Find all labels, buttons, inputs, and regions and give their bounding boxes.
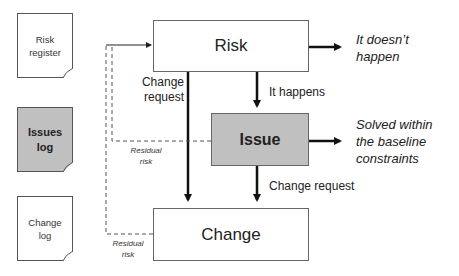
- box-issue: Issue: [211, 113, 309, 166]
- doc-risk-register-line2: register: [29, 46, 61, 59]
- page-fold-icon: [63, 162, 73, 172]
- label-residual-risk-change-line2: risk: [108, 249, 148, 260]
- box-change-label: Change: [201, 225, 261, 245]
- outcome-issue-line3: constraints: [356, 150, 433, 167]
- outcome-risk-line2: happen: [356, 48, 409, 65]
- doc-issues-log: Issues log: [17, 107, 73, 172]
- doc-change-log-line2: log: [28, 229, 61, 242]
- box-change: Change: [153, 208, 309, 261]
- outcome-issue-line1: Solved within: [356, 116, 433, 133]
- label-residual-risk-change-line1: Residual: [108, 238, 148, 249]
- label-change-request-left-line2: request: [132, 90, 184, 105]
- page-fold-icon: [63, 68, 73, 78]
- label-residual-risk-change: Residual risk: [108, 238, 148, 260]
- label-residual-risk-issue: Residual risk: [126, 145, 166, 167]
- box-risk: Risk: [153, 20, 309, 72]
- box-risk-label: Risk: [214, 36, 247, 56]
- label-it-happens: It happens: [269, 85, 325, 100]
- label-residual-risk-issue-line1: Residual: [126, 145, 166, 156]
- outcome-issue-line2: the baseline: [356, 133, 433, 150]
- doc-change-log: Change log: [17, 196, 73, 261]
- doc-issues-log-line2: log: [28, 140, 62, 155]
- label-change-request-left-line1: Change: [132, 75, 184, 90]
- residual-loop-change: [106, 45, 153, 234]
- label-residual-risk-issue-line2: risk: [126, 156, 166, 167]
- box-issue-label: Issue: [240, 131, 281, 149]
- outcome-risk-line1: It doesn’t: [356, 31, 409, 48]
- outcome-it-doesnt-happen: It doesn’t happen: [356, 31, 409, 65]
- page-fold-icon: [63, 251, 73, 261]
- doc-issues-log-line1: Issues: [28, 125, 62, 140]
- doc-risk-register: Risk register: [17, 13, 73, 78]
- doc-risk-register-line1: Risk: [29, 33, 61, 46]
- label-change-request-right: Change request: [269, 179, 354, 194]
- doc-change-log-line1: Change: [28, 216, 61, 229]
- label-change-request-left: Change request: [132, 75, 184, 105]
- outcome-solved-within-baseline: Solved within the baseline constraints: [356, 116, 433, 167]
